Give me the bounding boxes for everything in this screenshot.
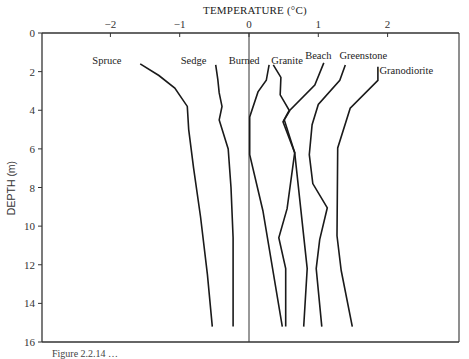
y-tick-label: 4 <box>30 104 36 116</box>
y-axis-title: DEPTH (m) <box>5 161 17 215</box>
series-label-granodiorite: Granodiorite <box>379 65 433 76</box>
series-label-granite: Granite <box>271 55 303 66</box>
series-label-burned: Burned <box>229 55 261 66</box>
series-label-spruce: Spruce <box>92 55 121 66</box>
x-tick-label: −1 <box>174 18 186 30</box>
series-line-granodiorite <box>337 67 378 327</box>
series-line-greenstone <box>309 65 345 327</box>
y-tick-label: 10 <box>24 220 36 232</box>
series-line-spruce <box>140 64 212 327</box>
x-tick-label: 1 <box>316 18 322 30</box>
y-tick-label: 0 <box>30 27 36 39</box>
series-line-sedge <box>216 65 233 327</box>
y-tick-label: 12 <box>24 259 35 271</box>
x-tick-label: 2 <box>385 18 391 30</box>
y-tick-label: 6 <box>30 143 36 155</box>
y-tick-label: 14 <box>24 297 36 309</box>
figure-caption: Figure 2.2.14 … <box>52 348 118 359</box>
series-label-sedge: Sedge <box>181 55 207 66</box>
series-line-burned <box>250 65 283 327</box>
x-tick-label: −2 <box>105 18 117 30</box>
y-tick-label: 2 <box>30 66 36 78</box>
y-tick-label: 8 <box>30 182 36 194</box>
series-label-greenstone: Greenstone <box>339 50 387 61</box>
series-label-beach: Beach <box>305 50 332 61</box>
x-tick-label: 0 <box>246 18 252 30</box>
y-tick-label: 16 <box>24 336 36 348</box>
